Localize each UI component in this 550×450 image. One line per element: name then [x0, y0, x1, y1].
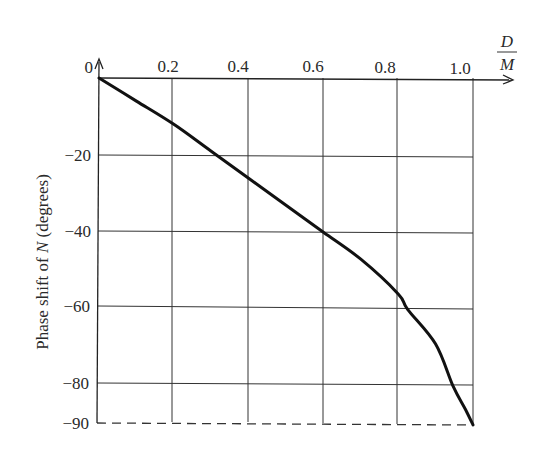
dashed-line-minus-90 [97, 423, 473, 425]
x-tick-label: 0.2 [157, 57, 178, 76]
phase-shift-chart: 0.2 0.4 0.6 0.8 1.0 D M 0 −20 −40 −60 −8… [0, 0, 550, 450]
gridline-y-minus-40 [98, 231, 473, 233]
y-tick-labels: 0 −20 −40 −60 −80 −90 [62, 58, 93, 433]
gridline-y-minus-80 [97, 383, 473, 385]
y-axis-label-part: (degrees) [33, 174, 52, 242]
x-tick-label: 0.6 [302, 57, 323, 76]
gridline-y-minus-20 [99, 155, 473, 157]
y-tick-label: −20 [64, 146, 91, 165]
horizontal-gridlines [97, 155, 473, 385]
y-tick-label: −80 [62, 374, 89, 393]
y-tick-label: −90 [62, 414, 89, 433]
y-tick-label: 0 [85, 58, 94, 77]
x-tick-label: 0.8 [374, 58, 395, 77]
x-axis-label-numerator: D [500, 32, 514, 51]
y-tick-label: −40 [64, 222, 91, 241]
x-axis-label-denominator: M [499, 55, 515, 74]
x-tick-label: 1.0 [449, 59, 470, 78]
y-axis-label-part: Phase shift of [33, 253, 52, 350]
y-axis-label: Phase shift of N (degrees) [33, 174, 52, 350]
x-axis [99, 78, 512, 80]
gridline-y-minus-60 [98, 306, 473, 309]
x-axis-label: D M [497, 32, 517, 74]
x-tick-labels: 0.2 0.4 0.6 0.8 1.0 [157, 57, 470, 78]
vertical-gridlines [172, 78, 473, 425]
x-tick-label: 0.4 [227, 57, 249, 76]
phase-shift-curve [99, 78, 473, 425]
y-axis [97, 62, 99, 423]
y-tick-label: −60 [63, 297, 90, 316]
